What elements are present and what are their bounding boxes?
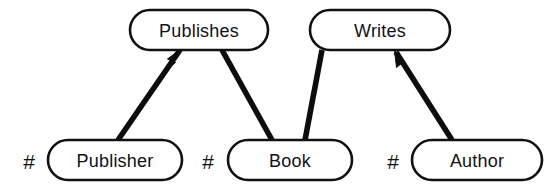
entity-label-author: Author	[450, 151, 504, 171]
entity-node-author[interactable]: # Author	[387, 140, 542, 180]
key-marker-publisher: #	[23, 150, 35, 173]
relationship-label-writes: Writes	[354, 21, 406, 41]
edge-book-to-writes	[305, 50, 322, 140]
er-diagram-canvas: Publishes Writes # Publisher # Book # Au…	[0, 0, 552, 188]
er-diagram-svg: Publishes Writes # Publisher # Book # Au…	[0, 0, 552, 188]
entity-label-book: Book	[269, 151, 312, 171]
key-marker-author: #	[387, 150, 399, 173]
edge-line-book-writes	[305, 50, 322, 140]
relationship-node-publishes[interactable]: Publishes	[130, 10, 268, 50]
relationship-label-publishes: Publishes	[159, 21, 239, 41]
arrowhead-icon-writes	[395, 50, 411, 75]
edge-publishes-to-book	[222, 50, 272, 140]
arrowhead-icon-publishes	[164, 49, 182, 73]
edge-line-publishes-book	[222, 50, 272, 140]
entity-node-publisher[interactable]: # Publisher	[23, 140, 182, 180]
entity-label-publisher: Publisher	[77, 151, 154, 171]
key-marker-book: #	[202, 150, 214, 173]
edge-publisher-to-publishes	[118, 49, 182, 141]
entity-node-book[interactable]: # Book	[202, 140, 352, 180]
edge-layer	[118, 49, 452, 141]
relationship-node-writes[interactable]: Writes	[310, 10, 450, 50]
edge-author-to-writes	[395, 50, 453, 140]
